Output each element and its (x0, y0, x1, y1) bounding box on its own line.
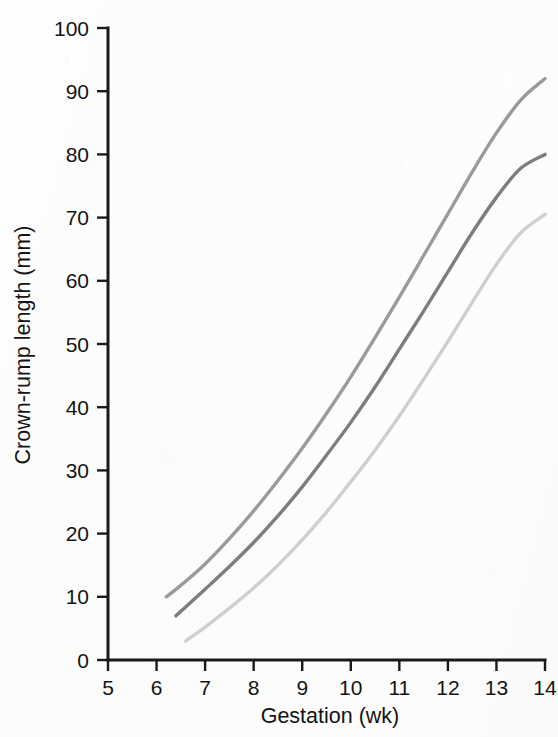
series-curve-upper-percentile (166, 79, 545, 597)
data-series-group (166, 79, 545, 641)
x-tick-label: 13 (485, 676, 508, 699)
y-tick-label: 30 (66, 459, 89, 482)
x-axis-tick-labels: 567891011121314 (102, 676, 557, 699)
x-tick-label: 10 (339, 676, 362, 699)
y-tick-label: 40 (66, 396, 89, 419)
x-tick-label: 6 (151, 676, 163, 699)
y-tick-label: 10 (66, 585, 89, 608)
plot-area: 0102030405060708090100 567891011121314 C… (0, 0, 558, 737)
x-tick-label: 12 (436, 676, 459, 699)
y-tick-label: 60 (66, 269, 89, 292)
chart-figure: 0102030405060708090100 567891011121314 C… (0, 0, 558, 737)
y-tick-label: 50 (66, 333, 89, 356)
x-tick-label: 5 (102, 676, 114, 699)
y-tick-label: 100 (54, 17, 89, 40)
y-tick-label: 80 (66, 143, 89, 166)
y-tick-label: 20 (66, 522, 89, 545)
x-tick-label: 7 (199, 676, 211, 699)
y-tick-label: 90 (66, 80, 89, 103)
x-axis-title: Gestation (wk) (261, 704, 400, 728)
series-curve-lower-percentile (186, 214, 545, 641)
x-tick-label: 8 (248, 676, 260, 699)
y-axis-title: Crown-rump length (mm) (11, 226, 35, 465)
x-tick-label: 11 (388, 676, 410, 699)
x-axis-ticks (108, 660, 545, 671)
series-curve-median-percentile (176, 154, 545, 615)
axes-group (108, 28, 545, 660)
x-tick-label: 14 (533, 676, 557, 699)
y-tick-label: 70 (66, 206, 89, 229)
y-axis-tick-labels: 0102030405060708090100 (54, 17, 89, 672)
y-tick-label: 0 (77, 649, 89, 672)
x-tick-label: 9 (296, 676, 308, 699)
y-axis-ticks (97, 28, 108, 660)
